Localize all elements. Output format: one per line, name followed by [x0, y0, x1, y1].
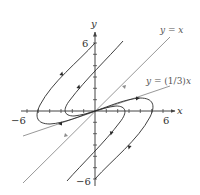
label-y-equals-third-x: y = (1/3)x — [145, 76, 191, 86]
eigenline-y-equals-x — [23, 37, 170, 183]
phase-portrait-diagram: y x 6 −6 −6 6 y = x y = (1/3)x — [0, 0, 200, 195]
label-y-equals-x: y = x — [159, 25, 183, 35]
x-max-label: 6 — [163, 115, 169, 126]
y-axis — [93, 32, 97, 186]
trajectory-inner-right — [67, 106, 125, 181]
y-min-label: −6 — [76, 176, 91, 187]
trajectory-outer-left — [37, 43, 95, 124]
x-min-label: −6 — [11, 115, 26, 126]
arrow-icon — [64, 133, 68, 137]
arrow-icon — [122, 85, 126, 89]
x-axis-label: x — [177, 105, 183, 116]
trajectory-outer-right — [95, 98, 153, 179]
y-max-label: 6 — [82, 38, 88, 49]
y-axis-label: y — [90, 18, 97, 29]
